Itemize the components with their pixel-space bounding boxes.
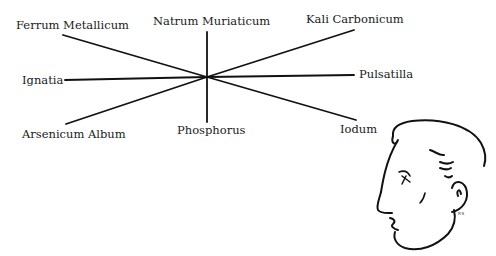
label-pulsatilla: Pulsatilla: [359, 69, 413, 81]
label-natrum-muriaticum: Natrum Muriaticum: [153, 16, 270, 28]
line-ignatia: [65, 77, 207, 80]
label-phosphorus: Phosphorus: [177, 125, 245, 137]
line-arsenicum-album: [66, 77, 207, 124]
line-iodum: [207, 77, 356, 120]
label-ferrum-metallicum: Ferrum Metallicum: [16, 20, 129, 32]
line-pulsatilla: [207, 75, 354, 77]
label-iodum: Iodum: [340, 124, 377, 136]
head-profile-illustration: [377, 120, 485, 249]
label-kali-carbonicum: Kali Carbonicum: [306, 14, 404, 26]
line-ferrum-metallicum: [63, 35, 207, 77]
label-arsenicum-album: Arsenicum Album: [22, 129, 126, 141]
line-kali-carbonicum: [207, 30, 354, 77]
label-ignatia: Ignatia: [22, 75, 63, 87]
artist-signature: RS: [458, 211, 465, 216]
